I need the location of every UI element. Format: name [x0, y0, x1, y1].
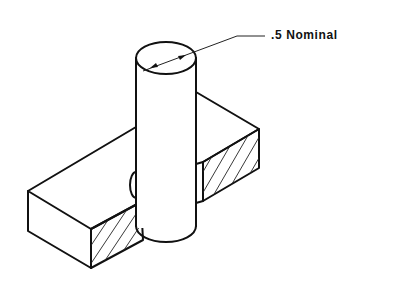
dimension-label: .5 Nominal	[271, 28, 338, 42]
cylinder-pin	[130, 42, 196, 242]
isometric-part-drawing	[0, 0, 395, 285]
